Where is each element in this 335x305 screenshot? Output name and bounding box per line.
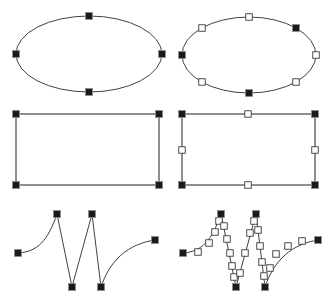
bottom-left-zigzag-path [18, 214, 155, 287]
shapes-layer [16, 16, 318, 287]
top-right-ellipse-node-handle[interactable] [246, 90, 253, 97]
middle-right-rectangle-subdivision-handle[interactable] [245, 182, 252, 189]
bottom-right-zigzag-path-subdivision-handle[interactable] [206, 240, 213, 247]
bottom-right-zigzag-path-outline[interactable] [183, 214, 318, 287]
top-left-ellipse-node-handle[interactable] [13, 51, 20, 58]
bottom-right-zigzag-path-subdivision-handle[interactable] [273, 251, 280, 258]
top-right-ellipse-node-handle[interactable] [179, 52, 186, 59]
top-right-ellipse-subdivision-handle[interactable] [199, 25, 206, 32]
top-left-ellipse [16, 16, 162, 92]
top-right-ellipse-node-handle[interactable] [293, 25, 300, 32]
bottom-right-zigzag-path-subdivision-handle[interactable] [212, 229, 219, 236]
bottom-right-zigzag-path-handles [180, 211, 322, 291]
middle-right-rectangle-node-handle[interactable] [179, 111, 186, 118]
bottom-right-zigzag-path-subdivision-handle[interactable] [259, 259, 266, 266]
bottom-right-zigzag-path-subdivision-handle[interactable] [255, 227, 262, 234]
bottom-right-zigzag-path-subdivision-handle[interactable] [257, 243, 264, 250]
middle-right-rectangle-subdivision-handle[interactable] [312, 147, 319, 154]
bottom-right-zigzag-path-subdivision-handle[interactable] [224, 236, 231, 243]
top-left-ellipse-handles [13, 13, 166, 96]
middle-left-rectangle-node-handle[interactable] [13, 182, 20, 189]
bottom-right-zigzag-path-subdivision-handle[interactable] [237, 270, 244, 277]
bottom-left-zigzag-path-node-handle[interactable] [89, 211, 96, 218]
bottom-right-zigzag-path-subdivision-handle[interactable] [261, 273, 268, 280]
bottom-right-zigzag-path-subdivision-handle[interactable] [227, 250, 234, 257]
bottom-right-zigzag-path-subdivision-handle[interactable] [195, 249, 202, 256]
top-right-ellipse-handles [179, 14, 320, 97]
middle-right-rectangle-outline[interactable] [182, 114, 315, 185]
middle-left-rectangle-handles [13, 111, 163, 189]
bottom-left-zigzag-path-node-handle[interactable] [152, 237, 159, 244]
middle-right-rectangle-handles [179, 111, 319, 189]
bottom-right-zigzag-path [183, 214, 318, 287]
middle-left-rectangle-node-handle[interactable] [156, 111, 163, 118]
bottom-right-zigzag-path-subdivision-handle[interactable] [251, 218, 258, 225]
bottom-left-zigzag-path-node-handle[interactable] [54, 211, 61, 218]
middle-right-rectangle [182, 114, 315, 185]
bottom-left-zigzag-path-node-handle[interactable] [15, 250, 22, 257]
bottom-left-zigzag-path-handles [15, 211, 159, 291]
bottom-right-zigzag-path-subdivision-handle[interactable] [285, 243, 292, 250]
bottom-right-zigzag-path-subdivision-handle[interactable] [247, 230, 254, 237]
handles-layer [13, 13, 322, 291]
middle-left-rectangle [16, 114, 159, 185]
middle-right-rectangle-node-handle[interactable] [179, 182, 186, 189]
vector-shapes-figure [0, 0, 335, 305]
bottom-right-zigzag-path-node-handle[interactable] [218, 211, 225, 218]
bottom-right-zigzag-path-subdivision-handle[interactable] [267, 265, 274, 272]
bottom-right-zigzag-path-node-handle[interactable] [180, 250, 187, 257]
middle-left-rectangle-node-handle[interactable] [13, 111, 20, 118]
bottom-right-zigzag-path-subdivision-handle[interactable] [242, 250, 249, 257]
bottom-left-zigzag-path-outline[interactable] [18, 214, 155, 287]
top-right-ellipse-subdivision-handle[interactable] [313, 52, 320, 59]
bottom-right-zigzag-path-node-handle[interactable] [233, 284, 240, 291]
bottom-right-zigzag-path-node-handle[interactable] [315, 237, 322, 244]
top-left-ellipse-node-handle[interactable] [86, 89, 93, 96]
top-left-ellipse-node-handle[interactable] [159, 51, 166, 58]
bottom-right-zigzag-path-subdivision-handle[interactable] [231, 274, 238, 281]
bottom-right-zigzag-path-subdivision-handle[interactable] [299, 238, 306, 245]
bottom-right-zigzag-path-subdivision-handle[interactable] [229, 263, 236, 270]
diagram-canvas [0, 0, 335, 305]
bottom-left-zigzag-path-node-handle[interactable] [69, 284, 76, 291]
middle-right-rectangle-node-handle[interactable] [312, 111, 319, 118]
bottom-right-zigzag-path-node-handle[interactable] [262, 284, 269, 291]
middle-left-rectangle-outline[interactable] [16, 114, 159, 185]
top-right-ellipse-subdivision-handle[interactable] [246, 14, 253, 21]
middle-right-rectangle-subdivision-handle[interactable] [245, 111, 252, 118]
bottom-right-zigzag-path-node-handle[interactable] [253, 211, 260, 218]
middle-right-rectangle-subdivision-handle[interactable] [179, 147, 186, 154]
top-right-ellipse-subdivision-handle[interactable] [199, 79, 206, 86]
top-left-ellipse-outline[interactable] [16, 16, 162, 92]
bottom-right-zigzag-path-subdivision-handle[interactable] [221, 223, 228, 230]
middle-right-rectangle-node-handle[interactable] [312, 182, 319, 189]
top-right-ellipse-subdivision-handle[interactable] [293, 79, 300, 86]
middle-left-rectangle-node-handle[interactable] [156, 182, 163, 189]
bottom-left-zigzag-path-node-handle[interactable] [98, 284, 105, 291]
top-left-ellipse-node-handle[interactable] [86, 13, 93, 20]
